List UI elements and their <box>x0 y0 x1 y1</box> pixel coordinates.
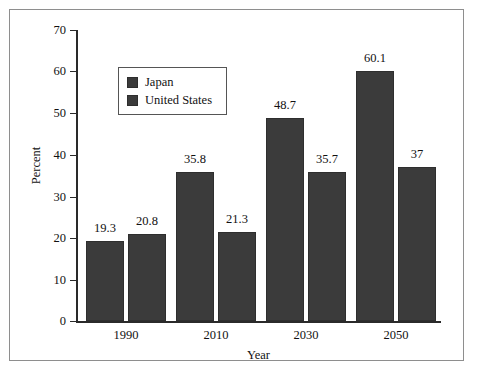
y-tick-label-40: 40 <box>40 149 66 161</box>
y-tick-label-60: 60 <box>40 65 66 77</box>
bar-us-2030 <box>308 172 346 321</box>
y-tick-30 <box>70 197 76 198</box>
y-tick-label-50-wrap: 50 <box>34 107 66 119</box>
y-tick-label-10-wrap: 10 <box>34 274 66 286</box>
figure-canvas: 70 60 50 40 30 20 10 0 Percent 19.3 20.8… <box>0 0 481 380</box>
bar-value-us-2030: 35.7 <box>303 152 351 167</box>
y-tick-50 <box>70 113 76 114</box>
bar-value-japan-2010: 35.8 <box>171 152 219 167</box>
bar-value-us-2050: 37 <box>393 147 441 162</box>
y-tick-label-70-wrap: 70 <box>34 24 66 36</box>
legend-label-japan: Japan <box>145 76 173 89</box>
bar-us-2050 <box>398 167 436 321</box>
y-tick-label-60-wrap: 60 <box>34 65 66 77</box>
y-tick-label-0-wrap: 0 <box>34 315 66 327</box>
y-tick-60 <box>70 71 76 72</box>
y-tick-label-50: 50 <box>40 107 66 119</box>
y-tick-label-20-wrap: 20 <box>34 232 66 244</box>
y-tick-label-30: 30 <box>40 191 66 203</box>
y-tick-label-70: 70 <box>40 24 66 36</box>
legend-item-united-states: United States <box>127 91 212 109</box>
legend-label-united-states: United States <box>145 94 212 107</box>
bar-japan-2030 <box>266 118 304 321</box>
legend-item-japan: Japan <box>127 73 212 91</box>
y-axis-title: Percent <box>29 126 44 206</box>
y-tick-label-20: 20 <box>40 232 66 244</box>
x-axis-title: Year <box>76 348 441 363</box>
y-tick-40 <box>70 155 76 156</box>
bar-value-japan-2050: 60.1 <box>351 51 399 66</box>
y-tick-10 <box>70 280 76 281</box>
bar-value-us-1990: 20.8 <box>123 214 171 229</box>
y-tick-label-10: 10 <box>40 274 66 286</box>
bar-japan-2010 <box>176 172 214 321</box>
legend-swatch-japan-icon <box>127 77 138 88</box>
chart-legend: Japan United States <box>118 67 227 115</box>
y-tick-70 <box>70 30 76 31</box>
bar-us-1990 <box>128 234 166 321</box>
y-tick-0 <box>70 321 76 322</box>
bar-value-japan-2030: 48.7 <box>261 98 309 113</box>
x-tick-label-1990: 1990 <box>96 328 156 343</box>
x-tick-label-2050: 2050 <box>366 328 426 343</box>
x-tick-label-2030: 2030 <box>276 328 336 343</box>
x-axis-line <box>76 321 441 323</box>
bar-japan-1990 <box>86 241 124 321</box>
bar-us-2010 <box>218 232 256 321</box>
x-tick-label-2010: 2010 <box>186 328 246 343</box>
y-tick-20 <box>70 238 76 239</box>
legend-swatch-united-states-icon <box>127 95 138 106</box>
bar-japan-2050 <box>356 71 394 321</box>
bar-value-japan-1990: 19.3 <box>81 221 129 236</box>
y-tick-label-0: 0 <box>40 315 66 327</box>
bar-value-us-2010: 21.3 <box>213 212 261 227</box>
